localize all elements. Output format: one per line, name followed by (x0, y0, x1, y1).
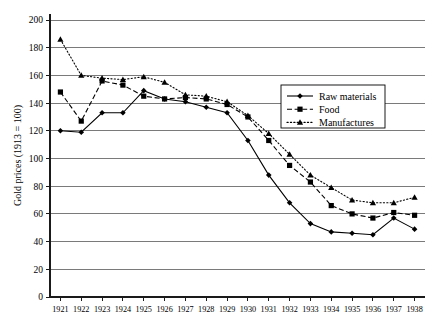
data-point (349, 230, 355, 236)
x-tick-label: 1936 (365, 305, 381, 314)
x-tick-label: 1930 (240, 305, 256, 314)
data-point (182, 92, 188, 98)
y-axis-ticks (46, 20, 50, 297)
data-point (203, 104, 209, 110)
data-point (141, 74, 147, 80)
x-tick-label: 1924 (115, 305, 131, 314)
y-axis-tick-labels: 020406080100120140160180200 (29, 15, 44, 302)
gold-prices-line-chart: Gold prices (1913 = 100) 020406080100120… (0, 0, 435, 326)
data-point (266, 138, 271, 143)
data-point (412, 226, 418, 232)
x-tick-label: 1938 (406, 305, 422, 314)
data-point (412, 213, 417, 218)
legend-label: Food (319, 104, 340, 115)
chart-plot-area: 020406080100120140160180200 192119221923… (0, 0, 435, 326)
data-point (370, 215, 375, 220)
legend-label: Raw materials (319, 91, 377, 102)
y-tick-label: 0 (38, 292, 43, 302)
y-tick-label: 140 (29, 99, 44, 109)
x-tick-label: 1932 (281, 305, 297, 314)
y-tick-label: 160 (29, 71, 44, 81)
x-tick-label: 1931 (261, 305, 277, 314)
x-tick-label: 1926 (156, 305, 172, 314)
data-point (120, 82, 125, 87)
y-tick-label: 200 (29, 15, 44, 25)
legend-marker-sample (297, 107, 302, 112)
x-axis-tick-labels: 1921192219231924192519261927192819291930… (52, 305, 423, 314)
x-tick-label: 1927 (177, 305, 193, 314)
data-point (162, 96, 167, 101)
data-series-lines (60, 39, 414, 234)
x-tick-label: 1923 (94, 305, 110, 314)
data-point (411, 194, 417, 200)
y-tick-label: 60 (34, 209, 44, 219)
data-series-markers (57, 36, 417, 237)
data-point (308, 179, 313, 184)
data-point (349, 211, 354, 216)
grid-lines (50, 20, 425, 269)
data-point (58, 128, 64, 134)
y-tick-label: 120 (29, 126, 44, 136)
data-point (328, 184, 334, 190)
x-tick-label: 1929 (219, 305, 235, 314)
data-point (329, 203, 334, 208)
data-point (203, 93, 209, 99)
x-tick-label: 1922 (73, 305, 89, 314)
x-tick-label: 1933 (302, 305, 318, 314)
y-tick-label: 40 (34, 237, 44, 247)
y-tick-label: 80 (34, 182, 44, 192)
x-tick-label: 1928 (198, 305, 214, 314)
data-point (307, 172, 313, 178)
x-tick-label: 1925 (136, 305, 152, 314)
data-point (79, 119, 84, 124)
data-point (57, 36, 63, 42)
x-tick-label: 1934 (323, 305, 339, 314)
y-tick-label: 100 (29, 154, 44, 164)
legend-label: Manufactures (319, 117, 374, 128)
data-point (58, 89, 63, 94)
data-point (328, 229, 334, 235)
x-axis-ticks (60, 297, 414, 301)
data-point (391, 210, 396, 215)
x-tick-label: 1937 (386, 305, 402, 314)
x-tick-label: 1921 (52, 305, 68, 314)
data-point (349, 197, 355, 203)
data-point (141, 94, 146, 99)
y-tick-label: 180 (29, 43, 44, 53)
x-tick-label: 1935 (344, 305, 360, 314)
data-point (287, 163, 292, 168)
y-tick-label: 20 (34, 265, 44, 275)
chart-legend: Raw materialsFoodManufactures (281, 85, 385, 128)
